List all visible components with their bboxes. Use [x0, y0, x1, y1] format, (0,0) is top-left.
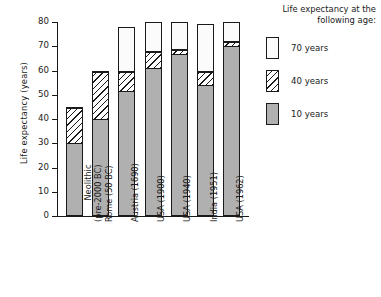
x-axis-tick-label-line-1: USA (1900) — [156, 175, 166, 222]
x-axis-tick-label: Austria (1690) — [131, 163, 141, 222]
y-axis-tick: 70 — [52, 46, 57, 47]
y-axis-tick-label: 30 — [38, 137, 49, 147]
bar-segment-70-years — [146, 23, 161, 52]
legend-item-label: 40 years — [291, 76, 328, 86]
bar-segment-40-years — [119, 72, 134, 93]
bar-segment-10-years — [67, 144, 82, 216]
x-axis-tick-label: USA (1900) — [157, 175, 167, 222]
legend: Life expectancy at the following age: 70… — [258, 4, 378, 135]
y-axis-tick: 0 — [52, 216, 57, 217]
bar-segment-40-years — [198, 72, 213, 87]
legend-item: 70 years — [258, 36, 378, 60]
bar-segment-70-years — [172, 23, 187, 50]
bar-segment-40-years — [146, 52, 161, 69]
legend-item-label: 70 years — [291, 43, 328, 53]
legend-item-group: 70 years40 years10 years — [258, 36, 378, 126]
y-axis-tick-label: 40 — [38, 113, 49, 123]
x-axis-tick-label-line-2: (pre-2000 BC) — [93, 165, 103, 222]
legend-title-line-1: Life expectancy at the — [282, 4, 376, 14]
legend-swatch-10-years — [266, 103, 279, 125]
legend-item-label: 10 years — [291, 109, 328, 119]
bar-segment-70-years — [119, 28, 134, 72]
bar-segment-70-years — [198, 25, 213, 71]
y-axis-tick: 60 — [52, 71, 57, 72]
legend-item: 10 years — [258, 102, 378, 126]
bar-segment-70-years — [224, 23, 239, 42]
y-axis-tick-label: 80 — [38, 16, 49, 26]
bar — [66, 107, 83, 216]
y-axis-tick-label: 20 — [38, 162, 49, 172]
y-axis-tick: 10 — [52, 192, 57, 193]
plot-area: 01020304050607080 Neolithic(pre-2000 BC)… — [57, 22, 249, 216]
x-axis-tick-label-line-1: Neolithic — [83, 165, 93, 201]
x-axis-tick-label: USA (1962) — [236, 175, 246, 222]
legend-swatch-40-years — [266, 70, 279, 92]
legend-title: Life expectancy at the following age: — [258, 4, 376, 26]
x-axis-tick-label: India (1951) — [210, 172, 220, 222]
x-axis-tick-label-line-1: India (1951) — [209, 172, 219, 222]
y-axis-title: Life expectancy (years) — [19, 33, 29, 193]
x-axis-tick-label: Neolithic(pre-2000 BC) — [84, 165, 103, 222]
y-axis-tick: 20 — [52, 168, 57, 169]
x-axis-tick-label: USA (1940) — [183, 175, 193, 222]
x-axis-tick-label-line-1: Rome (50 BC) — [104, 165, 114, 222]
y-axis-tick-label: 0 — [44, 210, 49, 220]
y-axis-tick-label: 60 — [38, 65, 49, 75]
legend-title-line-2: following age: — [317, 15, 376, 25]
legend-swatch-70-years — [266, 37, 279, 59]
y-axis-tick: 30 — [52, 143, 57, 144]
y-axis-tick-label: 70 — [38, 40, 49, 50]
x-axis-tick-label-line-1: Austria (1690) — [130, 163, 140, 222]
y-axis-tick: 80 — [52, 22, 57, 23]
y-axis-line — [57, 22, 58, 216]
life-expectancy-chart: Life expectancy (years) 0102030405060708… — [0, 0, 381, 297]
bar-segment-40-years — [67, 108, 82, 144]
bar-segment-40-years — [93, 72, 108, 121]
legend-item: 40 years — [258, 69, 378, 93]
x-axis-tick-label: Rome (50 BC) — [105, 165, 115, 222]
x-axis-tick-label-line-1: USA (1940) — [182, 175, 192, 222]
y-axis-tick-label: 10 — [38, 186, 49, 196]
y-axis-tick: 40 — [52, 119, 57, 120]
y-axis-tick: 50 — [52, 95, 57, 96]
x-axis-tick-label-line-1: USA (1962) — [235, 175, 245, 222]
y-axis-tick-label: 50 — [38, 89, 49, 99]
